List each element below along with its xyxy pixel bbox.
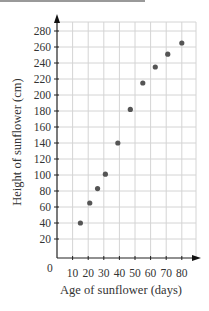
x-tick-label: 80: [176, 267, 188, 279]
data-point: [165, 52, 170, 57]
y-tick-label: 240: [34, 57, 52, 69]
y-axis-arrow-icon: [54, 14, 60, 23]
x-tick-label: 40: [114, 267, 126, 279]
data-points: [78, 40, 185, 225]
data-point: [179, 40, 184, 45]
y-tick-label: 120: [34, 153, 52, 165]
y-tick-label: 20: [40, 233, 52, 245]
y-tick-label: 40: [40, 217, 52, 229]
data-point: [78, 220, 83, 225]
x-tick-label: 70: [160, 267, 172, 279]
x-tick-label: 50: [129, 267, 141, 279]
axes: [54, 14, 201, 261]
y-tick-label: 140: [34, 137, 52, 149]
y-tick-label: 200: [34, 89, 52, 101]
y-axis-title: Height of sunflower (cm): [10, 78, 24, 205]
data-point: [153, 64, 158, 69]
y-tick-label: 180: [34, 105, 52, 117]
scatter-chart: 1020304050607080 20406080100120140160180…: [0, 0, 209, 311]
data-point: [140, 80, 145, 85]
y-tick-label: 280: [34, 25, 52, 37]
y-tick-label: 100: [34, 169, 52, 181]
y-tick-label: 260: [34, 41, 52, 53]
data-point: [128, 107, 133, 112]
y-tick-label: 80: [40, 185, 52, 197]
data-point: [95, 186, 100, 191]
y-tick-label: 220: [34, 73, 52, 85]
x-tick-label: 20: [82, 267, 94, 279]
x-tick-label: 60: [145, 267, 157, 279]
x-axis-title: Age of sunflower (days): [60, 283, 182, 297]
x-axis-ticks: 1020304050607080: [67, 256, 188, 279]
y-tick-label: 160: [34, 121, 52, 133]
data-point: [103, 172, 108, 177]
data-point: [87, 200, 92, 205]
x-tick-label: 10: [67, 267, 79, 279]
y-axis-ticks: 20406080100120140160180200220240260280: [34, 25, 59, 245]
data-point: [115, 140, 120, 145]
y-tick-label: 60: [40, 201, 52, 213]
origin-label: 0: [47, 262, 53, 274]
x-tick-label: 30: [98, 267, 110, 279]
